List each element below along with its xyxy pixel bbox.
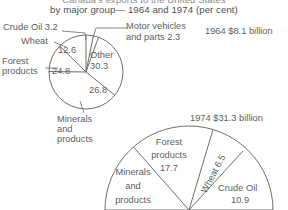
label-minerals-1964-line2: and — [57, 124, 73, 134]
label-crude-oil-1974: Crude Oil — [218, 183, 257, 193]
total-1974: 1974 $31.3 billion — [190, 113, 263, 123]
leader-motor-1964 — [93, 28, 128, 38]
label-motor-vehicles-1964-line2: and parts 2.3 — [126, 32, 180, 42]
label-minerals-1964-line1: Minerals — [57, 114, 92, 124]
leader-minerals-1964 — [80, 101, 84, 113]
chart-subtitle: by major group— 1964 and 1974 (per cent) — [0, 5, 288, 16]
label-forest-products-1974-line1: Forest — [141, 137, 197, 147]
value-wheat-1964: 12.6 — [58, 45, 76, 55]
label-minerals-1974-line2: and — [104, 181, 162, 191]
label-minerals-1974-line1: Minerals — [104, 167, 162, 177]
label-other-1964: Other — [90, 50, 113, 60]
label-forest-products-1974-line2: products — [141, 150, 197, 160]
value-other-1964: 30.3 — [90, 61, 108, 71]
label-motor-vehicles-1964-line1: Motor vehicles — [126, 21, 186, 31]
value-minerals-1964: 26.8 — [89, 85, 107, 95]
label-forest-products-1964-line1: Forest — [2, 56, 28, 66]
label-minerals-1964-line3: products — [57, 134, 93, 144]
value-forest-products-1964: 24.8 — [52, 66, 70, 76]
label-crude-oil-1964: Crude Oil 3.2 — [3, 22, 58, 32]
label-wheat-1964: Wheat — [21, 36, 48, 46]
chart-canvas: Canada's exports to the United States by… — [0, 0, 288, 210]
total-1964: 1964 $8.1 billion — [205, 26, 273, 36]
label-forest-products-1964-line2: products — [2, 66, 38, 76]
value-crude-oil-1974: 10.9 — [231, 195, 249, 205]
label-minerals-1974-line3: products — [104, 195, 162, 205]
